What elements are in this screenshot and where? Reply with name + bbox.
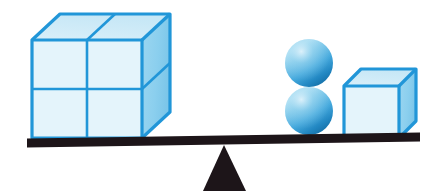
small-cube	[344, 69, 416, 138]
sphere-bottom-highlight	[285, 87, 333, 135]
balance-scale-figure	[0, 0, 440, 196]
sphere-top	[285, 39, 333, 87]
sphere-top-highlight	[285, 39, 333, 87]
large-cube-block	[32, 14, 170, 138]
fulcrum-triangle	[203, 145, 246, 191]
small-cube-front-face	[344, 86, 399, 138]
sphere-bottom	[285, 87, 333, 135]
figure-canvas	[0, 0, 440, 196]
